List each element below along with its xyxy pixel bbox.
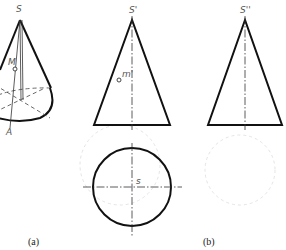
point-label-M: M [8,57,16,67]
apex-label-S: S [16,4,22,14]
background-ghost-circle [205,135,275,205]
point-label-A: A [5,127,12,137]
front-view: S' m' [94,5,170,130]
cone-projection-diagram: S M A S' m' s S'' (a) (b) [0,0,286,250]
side-view: S'' [208,5,282,130]
point-m-prime-marker [117,78,121,82]
base-diameter-1 [0,85,50,118]
isometric-cone: S M A [0,4,52,137]
cone-axis-double [22,20,23,100]
center-label-s: s [136,176,141,186]
background-ghost-circle [80,125,160,205]
caption-b: (b) [203,236,215,248]
generator-SA [10,20,20,128]
point-M-marker [13,67,17,71]
apex-label-S-prime: S' [129,5,137,15]
cone-generator-right [20,20,51,88]
cone-axis [20,20,21,100]
apex-label-S-double-prime: S'' [240,5,251,15]
top-view: s [83,143,182,236]
point-label-m-prime: m' [122,69,133,79]
caption-a: (a) [28,236,39,248]
